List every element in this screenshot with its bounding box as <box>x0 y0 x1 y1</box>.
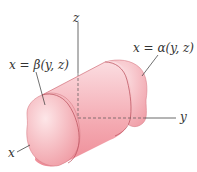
z-axis-label: z <box>73 12 79 24</box>
x-axis <box>17 145 30 152</box>
y-axis-label: y <box>180 111 187 123</box>
front-surface-label: x = β(y, z) <box>9 59 69 71</box>
back-surface-leader <box>142 55 158 76</box>
back-surface-label: x = α(y, z) <box>133 42 194 54</box>
solid-diagram <box>0 0 197 172</box>
x-axis-label: x <box>8 147 15 159</box>
